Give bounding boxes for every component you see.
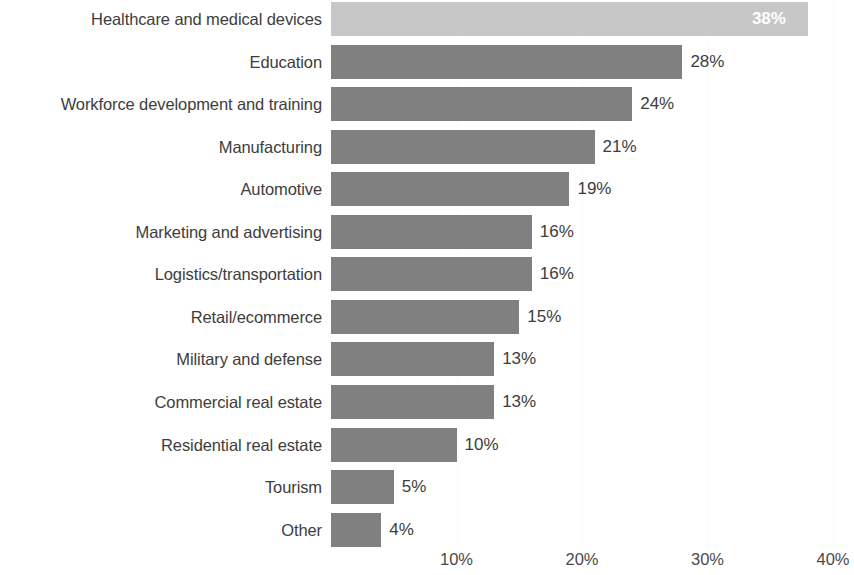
bar-row: Commercial real estate13% <box>0 385 854 419</box>
bar <box>331 513 381 547</box>
category-label: Retail/ecommerce <box>0 300 322 334</box>
bar <box>331 342 494 376</box>
bar-row: Healthcare and medical devices38% <box>0 2 854 36</box>
bar-value-label: 28% <box>690 45 724 79</box>
category-label: Residential real estate <box>0 428 322 462</box>
bar <box>331 45 682 79</box>
bar-value-label: 4% <box>389 513 414 547</box>
bar <box>331 2 808 36</box>
bar-value-label: 13% <box>502 385 536 419</box>
bar-value-label: 16% <box>540 257 574 291</box>
x-axis-tick-label: 30% <box>691 545 724 573</box>
bar-row: Military and defense13% <box>0 342 854 376</box>
bar-value-label: 10% <box>465 428 499 462</box>
bar-chart: Healthcare and medical devices38%Educati… <box>0 0 854 575</box>
bar-row: Marketing and advertising16% <box>0 215 854 249</box>
category-label: Military and defense <box>0 342 322 376</box>
category-label: Logistics/transportation <box>0 257 322 291</box>
bar-value-label: 21% <box>603 130 637 164</box>
bar-row: Tourism5% <box>0 470 854 504</box>
bar <box>331 428 457 462</box>
category-label: Workforce development and training <box>0 87 322 121</box>
bar-row: Logistics/transportation16% <box>0 257 854 291</box>
bar-value-label: 24% <box>640 87 674 121</box>
bar-row: Workforce development and training24% <box>0 87 854 121</box>
category-label: Automotive <box>0 172 322 206</box>
category-label: Other <box>0 513 322 547</box>
bar <box>331 470 394 504</box>
x-axis-tick-label: 40% <box>816 545 849 573</box>
bar <box>331 257 532 291</box>
bar <box>331 385 494 419</box>
bar <box>331 172 569 206</box>
bar-row: Manufacturing21% <box>0 130 854 164</box>
bar-value-label: 38% <box>752 2 786 36</box>
bar-value-label: 16% <box>540 215 574 249</box>
bar-value-label: 15% <box>527 300 561 334</box>
bar-value-label: 13% <box>502 342 536 376</box>
category-label: Marketing and advertising <box>0 215 322 249</box>
bar-row: Other4% <box>0 513 854 547</box>
bar-value-label: 5% <box>402 470 427 504</box>
category-label: Tourism <box>0 470 322 504</box>
bar-row: Retail/ecommerce15% <box>0 300 854 334</box>
bar-value-label: 19% <box>577 172 611 206</box>
category-label: Commercial real estate <box>0 385 322 419</box>
x-axis-tick-label: 10% <box>440 545 473 573</box>
bar-row: Residential real estate10% <box>0 428 854 462</box>
category-label: Manufacturing <box>0 130 322 164</box>
bar <box>331 87 632 121</box>
bar-row: Education28% <box>0 45 854 79</box>
bar <box>331 300 519 334</box>
category-label: Healthcare and medical devices <box>0 2 322 36</box>
bar-row: Automotive19% <box>0 172 854 206</box>
bar <box>331 215 532 249</box>
category-label: Education <box>0 45 322 79</box>
plot-area: Healthcare and medical devices38%Educati… <box>0 0 854 545</box>
x-axis-tick-label: 20% <box>565 545 598 573</box>
bar <box>331 130 595 164</box>
x-axis: 10%20%30%40% <box>0 545 854 575</box>
